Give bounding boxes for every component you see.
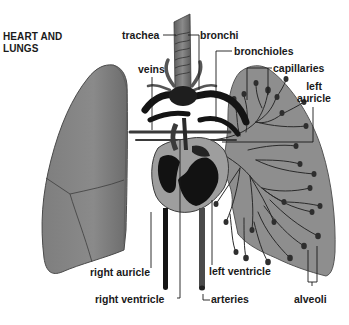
label-left-auricle: left auricle [297,80,331,104]
label-left-ventricle: left ventricle [209,265,271,277]
label-bronchi: bronchi [200,29,239,41]
label-veins: veins [138,63,165,75]
label-bronchioles: bronchioles [234,45,294,57]
title-line-1: HEART AND [3,31,62,43]
right-lung [42,65,127,274]
heart-and-lungs-diagram: HEART AND LUNGS trachea bronchi bronchio… [0,0,349,325]
label-trachea: trachea [122,29,159,41]
label-left-auricle-line-2: auricle [297,92,331,104]
label-right-auricle: right auricle [90,266,150,278]
label-left-auricle-line-1: left [297,80,331,92]
label-capillaries: capillaries [273,62,324,74]
title-line-2: LUNGS [3,43,62,55]
label-alveoli: alveoli [294,293,327,305]
descending-vessels [163,208,205,291]
label-right-ventricle: right ventricle [95,293,164,305]
label-arteries: arteries [211,293,249,305]
diagram-title: HEART AND LUNGS [3,31,62,55]
